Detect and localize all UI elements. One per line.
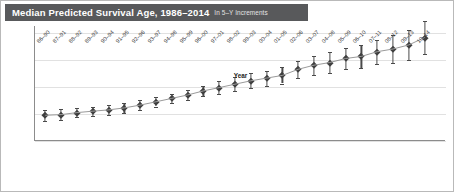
error-bar-cap xyxy=(186,100,190,101)
error-bar-cap xyxy=(296,61,300,62)
data-point-marker xyxy=(184,92,190,98)
error-bar-cap xyxy=(201,86,205,87)
data-point-marker xyxy=(358,53,364,59)
error-bar-cap xyxy=(59,109,63,110)
data-point-marker xyxy=(137,102,143,108)
error-bar-cap xyxy=(217,81,221,82)
chart-title-bar: Median Predicted Survival Age, 1986–2014… xyxy=(5,4,308,21)
error-bar-cap xyxy=(122,113,126,114)
error-bar-cap xyxy=(359,68,363,69)
data-point-marker xyxy=(200,88,206,94)
gridline xyxy=(35,141,446,142)
error-bar-cap xyxy=(43,110,47,111)
error-bar-cap xyxy=(43,121,47,122)
data-point-marker xyxy=(105,107,111,113)
data-point-marker xyxy=(374,48,380,54)
error-bar-cap xyxy=(154,107,158,108)
error-bar-cap xyxy=(407,60,411,61)
page-title: Median Predicted Survival Age, 1986–2014 xyxy=(12,7,209,18)
data-point-marker xyxy=(390,46,396,52)
x-axis-title: Year xyxy=(35,72,446,79)
error-bar-cap xyxy=(328,52,332,53)
chart-subtitle: In 5–Y Increments xyxy=(214,9,267,16)
error-bar-cap xyxy=(91,116,95,117)
error-bar-cap xyxy=(280,84,284,85)
plot-frame: 2428323640 Year 86–9087–9188–9289–9390–9… xyxy=(34,26,445,141)
data-point-marker xyxy=(168,95,174,101)
gridline xyxy=(35,87,446,88)
error-bar-cap xyxy=(423,21,427,22)
error-bar-cap xyxy=(265,86,269,87)
error-bar-cap xyxy=(280,67,284,68)
gridline xyxy=(35,60,446,61)
error-bar-cap xyxy=(359,45,363,46)
error-bar-cap xyxy=(391,63,395,64)
gridline xyxy=(35,114,446,115)
error-bar-cap xyxy=(75,117,79,118)
data-point-marker xyxy=(406,42,412,48)
error-bar-cap xyxy=(217,94,221,95)
error-bar-cap xyxy=(233,91,237,92)
plot-area: 2428323640 xyxy=(35,26,445,140)
error-bar-cap xyxy=(344,69,348,70)
data-point-marker xyxy=(153,99,159,105)
error-bar-cap xyxy=(344,48,348,49)
error-bar-cap xyxy=(107,115,111,116)
error-bar-cap xyxy=(423,54,427,55)
error-bar-cap xyxy=(170,103,174,104)
data-point-marker xyxy=(58,111,64,117)
data-point-marker xyxy=(121,105,127,111)
data-point-marker xyxy=(216,84,222,90)
chart-figure: Median Predicted Survival Age, 1986–2014… xyxy=(0,0,454,192)
error-bar-cap xyxy=(312,56,316,57)
error-bar-cap xyxy=(59,120,63,121)
error-bar-cap xyxy=(249,88,253,89)
error-bar-cap xyxy=(201,96,205,97)
error-bar-cap xyxy=(138,110,142,111)
error-bar-cap xyxy=(375,64,379,65)
data-point-marker xyxy=(311,62,317,68)
